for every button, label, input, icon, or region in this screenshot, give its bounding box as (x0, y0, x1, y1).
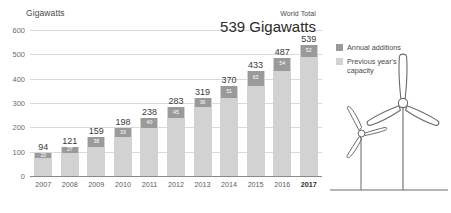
bar-additions-label: 36 (195, 100, 211, 105)
bar-previous-capacity: 27 (61, 147, 79, 176)
bar-total-label: 487 (275, 48, 290, 57)
x-axis-tick-label: 2013 (188, 180, 218, 189)
bar-additions-label: 20 (35, 153, 51, 158)
legend-swatch (336, 44, 343, 51)
legend-label: Previous year's capacity (347, 57, 406, 75)
bar-total-label: 370 (222, 76, 237, 85)
legend-swatch (336, 58, 343, 65)
bar-group[interactable]: 39198 (114, 30, 132, 176)
legend: Annual additionsPrevious year's capacity (336, 43, 406, 80)
bar-previous-capacity: 40 (140, 118, 158, 176)
callout-value: 539 Gigawatts (220, 18, 316, 35)
small-turbine (347, 106, 387, 190)
chart-panel: Gigawatts 0100200300400500600 2094271213… (0, 0, 328, 213)
x-axis-tick-label: 2014 (214, 180, 244, 189)
bar-group[interactable]: 63433 (247, 30, 265, 176)
bar-previous-capacity: 20 (34, 153, 52, 176)
bar-group[interactable]: 51370 (220, 30, 238, 176)
bar-additions-label: 38 (88, 139, 104, 144)
bar-additions-label: 27 (62, 147, 78, 152)
bar-total-label: 121 (62, 137, 77, 146)
bar-previous-capacity: 45 (167, 107, 185, 176)
bar-series: 2094271213815939198402384528336319513706… (30, 30, 322, 176)
bar-previous-capacity: 54 (273, 58, 291, 177)
bar-total-label: 433 (248, 61, 263, 70)
y-axis-tick-label: 500 (12, 50, 25, 59)
bar-total-label: 539 (301, 35, 316, 44)
axis-baseline: 0 (30, 176, 322, 177)
y-axis-tick-label: 400 (12, 74, 25, 83)
legend-item[interactable]: Previous year's capacity (336, 57, 406, 75)
wind-turbines-illustration (330, 0, 451, 213)
bar-group[interactable]: 52539 (300, 30, 318, 176)
x-axis-tick-label: 2009 (81, 180, 111, 189)
bar-additions-label: 63 (248, 76, 264, 81)
y-axis-title: Gigawatts (26, 8, 65, 18)
bar-group[interactable]: 45283 (167, 30, 185, 176)
world-total-callout: World Total 539 Gigawatts (220, 10, 316, 35)
bar-annual-additions: 20 (35, 153, 51, 158)
bar-total-label: 94 (38, 143, 48, 152)
bar-group[interactable]: 38159 (87, 30, 105, 176)
callout-eyebrow: World Total (220, 10, 316, 18)
x-axis: 2007200820092010201120122013201420152016… (30, 180, 322, 196)
y-axis-tick-label: 0 (21, 172, 25, 181)
y-axis-tick-label: 600 (12, 26, 25, 35)
bar-group[interactable]: 2094 (34, 30, 52, 176)
bar-total-label: 238 (142, 108, 157, 117)
bar-annual-additions: 52 (301, 45, 317, 58)
bar-previous-capacity: 51 (220, 86, 238, 176)
bar-annual-additions: 38 (88, 137, 104, 146)
bar-annual-additions: 45 (168, 107, 184, 118)
bar-total-label: 198 (115, 118, 130, 127)
bar-group[interactable]: 54487 (273, 30, 291, 176)
bar-group[interactable]: 40238 (140, 30, 158, 176)
x-axis-tick-label: 2007 (28, 180, 58, 189)
bar-annual-additions: 36 (195, 98, 211, 107)
bar-annual-additions: 27 (62, 147, 78, 154)
bar-additions-label: 40 (141, 120, 157, 125)
x-axis-tick-label: 2008 (55, 180, 85, 189)
bar-previous-capacity: 38 (87, 137, 105, 176)
x-axis-tick-label: 2010 (108, 180, 138, 189)
bar-additions-label: 54 (274, 61, 290, 66)
bar-total-label: 159 (89, 127, 104, 136)
bar-annual-additions: 54 (274, 58, 290, 71)
bar-group[interactable]: 36319 (194, 30, 212, 176)
x-axis-tick-label: 2011 (134, 180, 164, 189)
bar-group[interactable]: 27121 (61, 30, 79, 176)
legend-item[interactable]: Annual additions (336, 43, 406, 52)
bar-additions-label: 39 (115, 130, 131, 135)
bar-previous-capacity: 39 (114, 128, 132, 176)
y-axis-tick-label: 100 (12, 147, 25, 156)
bar-previous-capacity: 63 (247, 71, 265, 176)
bar-annual-additions: 63 (248, 71, 264, 86)
bar-additions-label: 51 (221, 90, 237, 95)
bar-previous-capacity: 52 (300, 45, 318, 176)
x-axis-tick-label: 2012 (161, 180, 191, 189)
bar-annual-additions: 51 (221, 86, 237, 98)
bar-annual-additions: 39 (115, 128, 131, 137)
x-axis-tick-label: 2017 (294, 180, 324, 189)
x-axis-tick-label: 2015 (241, 180, 271, 189)
bar-total-label: 319 (195, 88, 210, 97)
bar-additions-label: 52 (301, 49, 317, 54)
side-panel: Annual additionsPrevious year's capacity (330, 0, 451, 213)
bar-annual-additions: 40 (141, 118, 157, 128)
chart-figure: Gigawatts 0100200300400500600 2094271213… (0, 0, 451, 213)
bar-total-label: 283 (168, 97, 183, 106)
x-axis-tick-label: 2016 (267, 180, 297, 189)
plot-area: 0100200300400500600 20942712138159391984… (30, 30, 322, 176)
y-axis-tick-label: 300 (12, 99, 25, 108)
bar-additions-label: 45 (168, 110, 184, 115)
bar-previous-capacity: 36 (194, 98, 212, 176)
y-axis-tick-label: 200 (12, 123, 25, 132)
legend-label: Annual additions (347, 43, 401, 52)
